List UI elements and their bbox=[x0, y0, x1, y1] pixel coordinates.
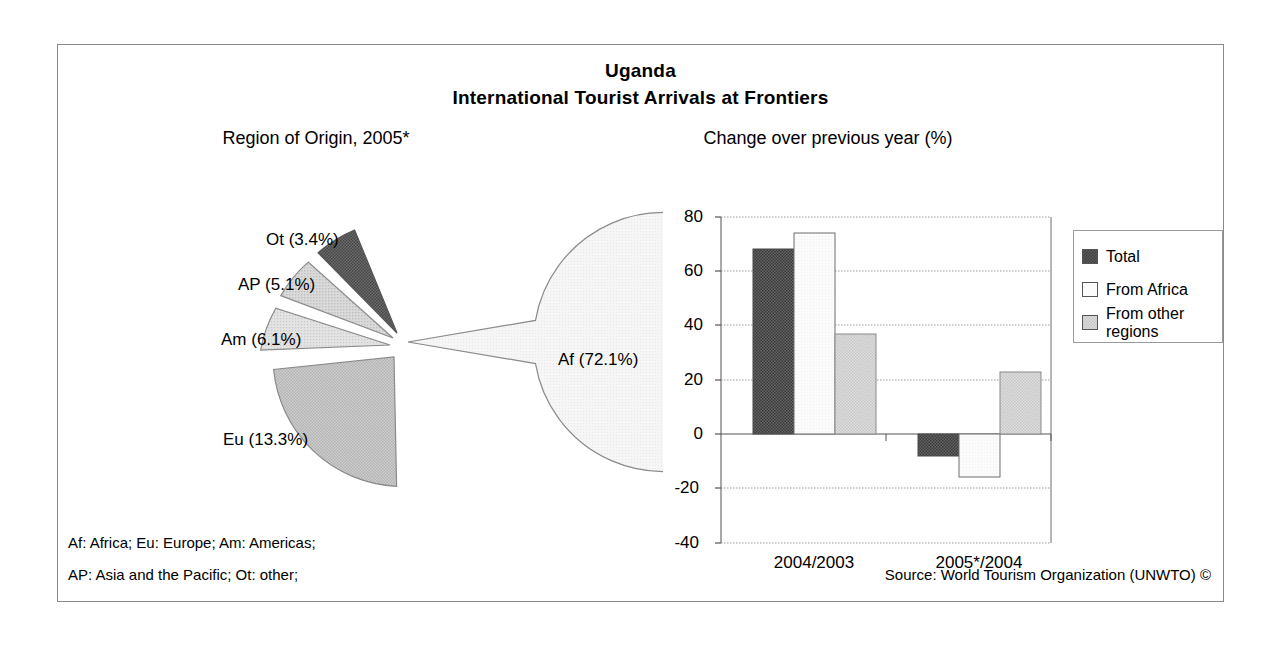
bar-chart-svg bbox=[633, 155, 1103, 555]
bar-total-2004 bbox=[753, 249, 794, 434]
pie-slice-af bbox=[408, 213, 663, 472]
source-note: Source: World Tourism Organization (UNWT… bbox=[885, 566, 1211, 583]
pie-label-eu: Eu (13.3%) bbox=[223, 430, 308, 450]
legend-label-from-other-regions: From other regions bbox=[1106, 305, 1214, 341]
bar-chart: 80 60 40 20 0 -20 -40 2004/2003 2005*/20… bbox=[633, 155, 1103, 555]
legend-item-from-africa[interactable]: From Africa bbox=[1082, 273, 1214, 306]
bar-other-2005 bbox=[1000, 372, 1041, 434]
page-title: Uganda bbox=[58, 60, 1223, 82]
legend-swatch-total-icon bbox=[1082, 249, 1098, 264]
legend-item-total[interactable]: Total bbox=[1082, 240, 1214, 273]
chart-page: Uganda International Tourist Arrivals at… bbox=[0, 0, 1281, 647]
y-tick-neg40: -40 bbox=[657, 533, 699, 553]
y-tick-40: 40 bbox=[661, 315, 703, 335]
y-tick-0: 0 bbox=[661, 424, 703, 444]
bar-africa-2004 bbox=[794, 233, 835, 434]
bar-africa-2005 bbox=[959, 434, 1000, 477]
bar-total-2005 bbox=[918, 434, 959, 456]
legend-label-total: Total bbox=[1106, 248, 1140, 266]
legend-swatch-from-africa-icon bbox=[1082, 282, 1098, 297]
y-tick-60: 60 bbox=[661, 261, 703, 281]
y-tick-20: 20 bbox=[661, 370, 703, 390]
pie-label-ot: Ot (3.4%) bbox=[266, 230, 339, 250]
legend-item-from-other-regions[interactable]: From other regions bbox=[1082, 306, 1214, 339]
bar-other-2004 bbox=[835, 334, 876, 434]
y-tick-neg20: -20 bbox=[657, 478, 699, 498]
abbreviation-note-line2: AP: Asia and the Pacific; Ot: other; bbox=[68, 566, 298, 583]
pie-label-ap: AP (5.1%) bbox=[238, 275, 315, 295]
abbreviation-note-line1: Af: Africa; Eu: Europe; Am: Americas; bbox=[68, 534, 316, 551]
y-tick-80: 80 bbox=[661, 207, 703, 227]
legend-label-from-africa: From Africa bbox=[1106, 281, 1188, 299]
pie-chart-subtitle: Region of Origin, 2005* bbox=[176, 128, 456, 149]
legend-swatch-from-other-regions-icon bbox=[1082, 315, 1098, 330]
pie-label-af: Af (72.1%) bbox=[558, 350, 638, 370]
y-tick-marks bbox=[715, 217, 721, 543]
pie-slice-eu bbox=[274, 357, 397, 486]
pie-chart: Ot (3.4%) AP (5.1%) Am (6.1%) Eu (13.3%)… bbox=[103, 165, 663, 495]
pie-chart-svg bbox=[103, 165, 663, 495]
page-subtitle: International Tourist Arrivals at Fronti… bbox=[58, 87, 1223, 109]
pie-label-am: Am (6.1%) bbox=[221, 330, 301, 350]
x-category-2004-2003: 2004/2003 bbox=[744, 553, 884, 573]
chart-legend: Total From Africa From other regions bbox=[1073, 230, 1223, 343]
bar-chart-subtitle: Change over previous year (%) bbox=[658, 128, 998, 149]
chart-frame: Uganda International Tourist Arrivals at… bbox=[57, 44, 1224, 602]
